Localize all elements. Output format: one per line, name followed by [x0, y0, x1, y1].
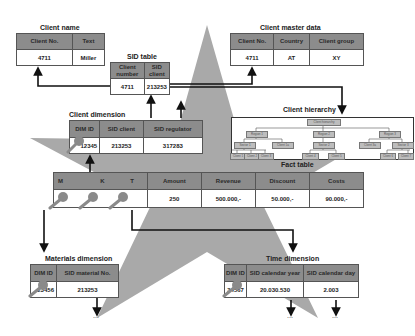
key-icon [66, 134, 86, 154]
hierarchy-node: Client 4 [302, 153, 319, 160]
col-header: Country [274, 34, 310, 50]
col-header: T [117, 173, 147, 190]
client-master-title: Client master data [260, 24, 321, 31]
hierarchy-node: Client 3a [359, 142, 381, 149]
cell: 90.000,- [309, 190, 363, 208]
col-header: SID calendar day [304, 265, 359, 282]
col-header: Amount [147, 173, 201, 190]
key-icon-t [108, 190, 130, 210]
ellipsis: ... [287, 312, 293, 319]
hierarchy-node: Client 7 [398, 153, 414, 160]
client-hierarchy-tree: Client hierarchy Region 1 Region 2 Regio… [231, 117, 414, 160]
sid-table: Client numberSID client 4711213253 [110, 62, 170, 95]
hierarchy-node: Region 3 [379, 131, 401, 138]
client-dimension-table: DIM IDSID clientSID regulator 1234521325… [69, 120, 203, 154]
key-icon-m [48, 190, 70, 210]
hierarchy-node: Sector 1 [234, 142, 256, 149]
cell: 213253 [56, 282, 118, 298]
col-header: SID regulator [143, 121, 202, 138]
cell: 20.030.530 [246, 282, 303, 298]
hierarchy-node: Sector 3 [392, 142, 414, 149]
col-header: Client group [309, 34, 363, 50]
col-header: Client No. [231, 34, 274, 50]
cell: 500.000,- [201, 190, 255, 208]
client-dimension-title: Client dimension [69, 111, 125, 118]
ellipsis: ... [93, 312, 99, 319]
client-name-title: Client name [40, 24, 80, 31]
cell: 250 [147, 190, 201, 208]
cell: 213253 [100, 138, 143, 154]
fact-table-title: Fact table [281, 161, 314, 168]
col-header: Client number [111, 63, 145, 79]
key-icon [222, 278, 244, 298]
col-header: Client No. [17, 34, 73, 50]
col-header: Discount [255, 173, 309, 190]
time-dimension-table: DIM IDSID calendar yearSID calendar day … [224, 264, 359, 298]
cell: 4711 [111, 79, 145, 95]
col-header: SID calendar year [246, 265, 303, 282]
ellipsis: ... [332, 312, 338, 319]
col-header: Revenue [201, 173, 255, 190]
hierarchy-node: Region 2 [313, 131, 335, 138]
cell: AT [274, 50, 310, 66]
key-icon [28, 278, 50, 298]
col-header: Text [72, 34, 104, 50]
cell: 317283 [143, 138, 202, 154]
col-header: SID client [100, 121, 143, 138]
client-name-table: Client No.Text 4711Miller [16, 33, 105, 66]
col-header: K [88, 173, 118, 190]
cell: 50.000,- [255, 190, 309, 208]
client-master-table: Client No.CountryClient group 4711ATXY [230, 33, 364, 66]
cell: 4711 [17, 50, 73, 66]
hierarchy-node: Region 1 [246, 131, 268, 138]
hierarchy-node: Sector 2 [313, 142, 335, 149]
hierarchy-node-root: Client hierarchy [307, 119, 341, 126]
cell: XY [309, 50, 363, 66]
hierarchy-node: Client 3 [258, 153, 274, 160]
sid-table-title: SID table [127, 53, 157, 60]
cell: 4711 [231, 50, 274, 66]
cell: 2.003 [304, 282, 359, 298]
hierarchy-node: Client 5 [328, 153, 345, 160]
cell: Miller [72, 50, 104, 66]
hierarchy-node: Client 1a [272, 142, 294, 149]
client-hierarchy-title: Client hierarchy [283, 106, 336, 113]
col-header: SID material No. [56, 265, 118, 282]
time-dimension-title: Time dimension [266, 255, 319, 262]
materials-dimension-title: Materials dimension [45, 255, 112, 262]
col-header: SID client [144, 63, 169, 79]
hierarchy-node: Client 6 [380, 153, 396, 160]
col-header: M [54, 173, 88, 190]
key-icon-k [78, 190, 100, 210]
col-header: Costs [309, 173, 363, 190]
cell: 213253 [144, 79, 169, 95]
